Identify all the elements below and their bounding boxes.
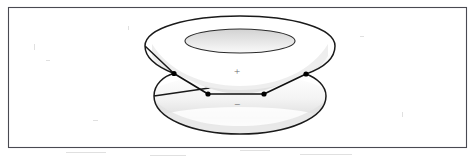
node-upper-right — [303, 71, 308, 76]
figure-canvas: − + — [0, 0, 475, 159]
upper-torus-label: + — [234, 65, 240, 77]
node-lower-right — [261, 91, 266, 96]
node-upper-left — [171, 71, 176, 76]
figure-svg: − + — [0, 0, 475, 159]
node-lower-left — [205, 91, 210, 96]
lower-torus-label: − — [234, 98, 240, 110]
